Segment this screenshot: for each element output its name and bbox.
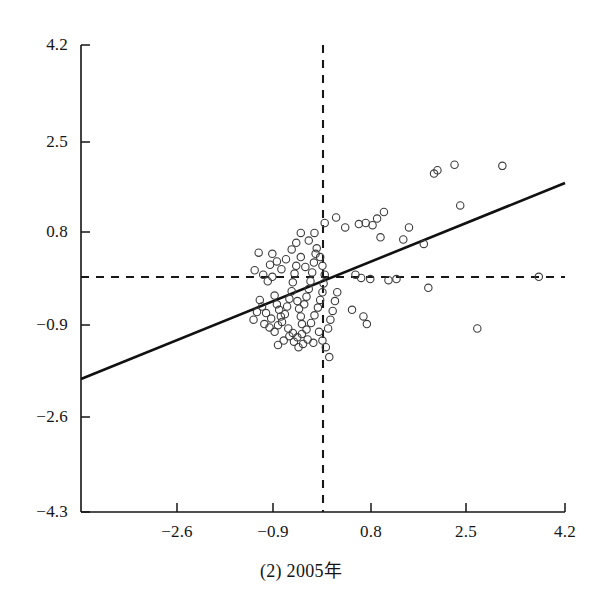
scatter-point: [425, 284, 432, 291]
scatter-point: [251, 267, 258, 274]
scatter-point: [269, 273, 276, 280]
scatter-point: [360, 313, 367, 320]
x-axis-ticks: [177, 503, 565, 512]
scatter-point: [305, 237, 312, 244]
xtick-label-neg-0-9: −0.9: [257, 522, 289, 542]
scatter-point: [313, 245, 320, 252]
ytick-label-2-5: 2.5: [18, 132, 68, 152]
scatter-point: [250, 316, 257, 323]
xtick-label-neg-2-6: −2.6: [161, 522, 193, 542]
scatter-point: [316, 296, 323, 303]
scatter-point: [303, 293, 310, 300]
scatter-point: [451, 161, 458, 168]
scatter-point: [474, 325, 481, 332]
scatter-point: [308, 269, 315, 276]
scatter-point: [285, 325, 292, 332]
scatter-point: [297, 253, 304, 260]
scatter-point: [405, 224, 412, 231]
scatter-point: [311, 229, 318, 236]
scatter-point: [369, 222, 376, 229]
scatter-point: [274, 341, 281, 348]
scatter-point: [278, 265, 285, 272]
scatter-point: [256, 296, 263, 303]
scatter-point: [302, 263, 309, 270]
scatter-point: [327, 316, 334, 323]
ytick-label-neg-0-9: −0.9: [18, 315, 68, 335]
scatter-point: [307, 319, 314, 326]
scatter-point: [255, 249, 262, 256]
scatter-point: [380, 208, 387, 215]
scatter-point: [301, 301, 308, 308]
scatter-point: [342, 224, 349, 231]
scatter-point: [363, 320, 370, 327]
ytick-label-0-8: 0.8: [18, 222, 68, 242]
scatter-point: [283, 303, 290, 310]
scatter-point: [297, 229, 304, 236]
plot-canvas: [0, 0, 602, 606]
scatter-point: [400, 236, 407, 243]
scatter-point: [288, 246, 295, 253]
scatter-point: [362, 219, 369, 226]
scatter-point: [315, 328, 322, 335]
scatter-point: [269, 250, 276, 257]
scatter-point: [311, 312, 318, 319]
scatter-point: [334, 289, 341, 296]
xtick-label-0-8: 0.8: [360, 522, 382, 542]
scatter-point: [253, 308, 260, 315]
scatter-point: [331, 297, 338, 304]
scatter-point: [293, 262, 300, 269]
y-axis-ticks: [81, 45, 90, 512]
scatter-points: [250, 161, 543, 361]
scatter-point: [295, 305, 302, 312]
scatter-point: [326, 353, 333, 360]
scatter-point: [499, 162, 506, 169]
ytick-label-4-2: 4.2: [18, 35, 68, 55]
figure-caption: (2) 2005年: [0, 556, 602, 582]
scatter-point: [332, 214, 339, 221]
scatter-point: [310, 259, 317, 266]
scatter-point: [329, 307, 336, 314]
ytick-label-neg-4-3: −4.3: [18, 502, 68, 522]
scatter-point: [286, 295, 293, 302]
scatter-point: [377, 234, 384, 241]
scatter-point: [321, 219, 328, 226]
scatter-point: [319, 262, 326, 269]
scatter-point: [271, 292, 278, 299]
scatter-point: [324, 325, 331, 332]
scatter-point: [303, 326, 310, 333]
scatter-point: [297, 313, 304, 320]
scatter-point: [293, 239, 300, 246]
scatter-point: [266, 261, 273, 268]
scatter-point: [304, 336, 311, 343]
ytick-label-neg-2-6: −2.6: [18, 407, 68, 427]
scatter-point: [457, 202, 464, 209]
scatter-point: [282, 256, 289, 263]
scatter-point: [355, 220, 362, 227]
scatter-plot-figure: 4.2 2.5 0.8 −0.9 −2.6 −4.3 −2.6 −0.9 0.8…: [0, 0, 602, 606]
xtick-label-4-2: 4.2: [554, 522, 576, 542]
scatter-point: [307, 278, 314, 285]
scatter-point: [294, 297, 301, 304]
scatter-point: [289, 279, 296, 286]
scatter-point: [273, 258, 280, 265]
xtick-label-2-5: 2.5: [455, 522, 477, 542]
scatter-point: [264, 278, 271, 285]
scatter-point: [314, 304, 321, 311]
scatter-point: [373, 215, 380, 222]
scatter-point: [348, 306, 355, 313]
